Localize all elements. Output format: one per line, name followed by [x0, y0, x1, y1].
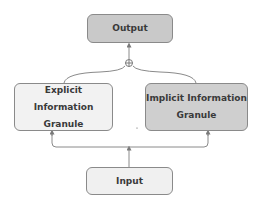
- explicit-label-line2: Granule: [15, 116, 112, 133]
- diagram: Output Explicit Information Granule Impl…: [0, 0, 263, 207]
- input-label: Input: [116, 173, 143, 190]
- split-to-granules-line: [52, 133, 208, 147]
- circle-plus-icon: [126, 60, 133, 67]
- implicit-label-line1: Implicit Information: [146, 90, 247, 107]
- implicit-label-line2: Granule: [146, 107, 247, 124]
- explicit-information-granule-node: Explicit Information Granule: [14, 83, 113, 131]
- output-node: Output: [87, 14, 173, 43]
- input-node: Input: [86, 167, 173, 195]
- implicit-to-junction-curve: [133, 66, 196, 83]
- explicit-to-junction-curve: [64, 66, 125, 83]
- explicit-label-line1: Explicit Information: [15, 82, 112, 116]
- output-label: Output: [112, 20, 148, 37]
- implicit-information-granule-node: Implicit Information Granule: [145, 83, 248, 131]
